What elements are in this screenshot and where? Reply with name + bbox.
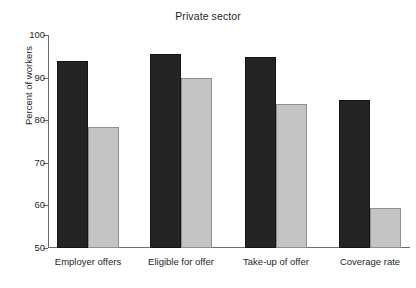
y-axis-line	[48, 35, 49, 248]
x-axis-label-2: Take-up of offer	[243, 256, 309, 267]
bar-light-1	[181, 78, 212, 248]
bar-chart: Private sector Percent of workers 506070…	[0, 0, 416, 288]
x-axis-label-0: Employer offers	[55, 256, 121, 267]
bar-dark-3	[339, 100, 370, 248]
bar-dark-0	[57, 61, 88, 248]
y-tick-label: 50	[34, 242, 45, 253]
bar-light-2	[276, 104, 307, 248]
y-tick-label: 70	[34, 157, 45, 168]
bar-light-0	[88, 127, 119, 248]
x-axis-label-3: Coverage rate	[340, 256, 400, 267]
y-tick-label: 100	[29, 29, 45, 40]
bar-light-3	[370, 208, 401, 248]
chart-title: Private sector	[0, 10, 416, 22]
bar-dark-1	[150, 54, 181, 248]
y-tick-label: 90	[34, 72, 45, 83]
plot-area: 5060708090100	[48, 35, 410, 248]
bar-dark-2	[245, 57, 276, 248]
y-tick-label: 60	[34, 199, 45, 210]
y-tick-label: 80	[34, 114, 45, 125]
x-axis-label-1: Eligible for offer	[148, 256, 214, 267]
